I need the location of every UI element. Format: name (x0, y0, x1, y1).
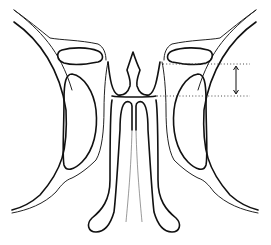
right-lower-cell (174, 74, 207, 169)
left-lower-cell (63, 74, 96, 169)
central-crest (108, 52, 160, 97)
right-upper-cell (168, 48, 213, 65)
left-outer-wall (12, 10, 108, 213)
left-upper-cell (58, 48, 103, 65)
right-outer-wall (162, 10, 258, 213)
diagram-canvas (0, 0, 271, 245)
anatomy-drawing (0, 0, 271, 245)
